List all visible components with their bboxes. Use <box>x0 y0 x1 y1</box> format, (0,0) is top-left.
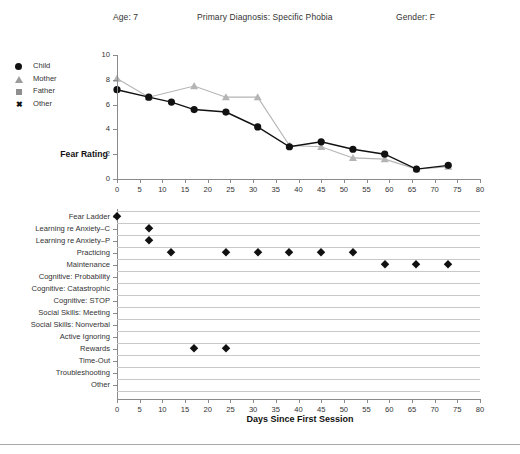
x-tick <box>117 179 118 183</box>
data-point-circle <box>145 94 152 101</box>
footer-divider <box>0 444 520 445</box>
session-marker <box>167 248 175 256</box>
patient-gender: Gender: F <box>396 12 435 22</box>
session-marker <box>444 260 452 268</box>
x-tick <box>253 399 254 403</box>
data-point-circle <box>318 138 325 145</box>
y-tick <box>113 229 117 230</box>
x-tick-label: 60 <box>377 185 401 194</box>
y-tick <box>113 301 117 302</box>
x-tick <box>162 399 163 403</box>
session-marker <box>253 248 261 256</box>
y-tick <box>113 241 117 242</box>
category-label: Time-Out <box>79 356 110 365</box>
y-tick <box>113 129 117 130</box>
data-point-circle <box>286 143 293 150</box>
x-tick <box>344 179 345 183</box>
y-tick <box>113 105 117 106</box>
x-tick <box>140 399 141 403</box>
x-tick-label: 70 <box>423 405 447 414</box>
x-tick-label: 35 <box>264 185 288 194</box>
category-label: Rewards <box>80 344 110 353</box>
x-tick <box>230 399 231 403</box>
x-tick <box>367 399 368 403</box>
category-label: Social Skills: Meeting <box>38 308 110 317</box>
y-tick <box>113 361 117 362</box>
category-row-line <box>117 283 480 284</box>
x-tick-label: 70 <box>423 185 447 194</box>
treatment-components-chart: Fear LadderLearning re Anxiety–CLearning… <box>0 205 520 420</box>
y-tick <box>113 325 117 326</box>
x-tick-label: 15 <box>173 405 197 414</box>
y-tick <box>113 80 117 81</box>
y-tick <box>113 313 117 314</box>
session-marker <box>190 344 198 352</box>
session-marker <box>285 248 293 256</box>
x-tick <box>389 179 390 183</box>
category-label: Cognitive: Catastrophic <box>31 284 110 293</box>
session-marker <box>222 248 230 256</box>
x-tick-label: 80 <box>468 185 492 194</box>
category-row-line <box>117 307 480 308</box>
category-label: Troubleshooting <box>56 368 110 377</box>
x-tick-label: 5 <box>128 405 152 414</box>
x-tick <box>185 399 186 403</box>
x-tick <box>299 179 300 183</box>
y-tick <box>113 265 117 266</box>
x-tick <box>457 179 458 183</box>
category-label: Cognitive: Probability <box>39 272 110 281</box>
series-mother <box>113 75 452 173</box>
category-label: Practicing <box>77 248 110 257</box>
data-point-circle <box>381 151 388 158</box>
x-tick-label: 80 <box>468 405 492 414</box>
x-tick-label: 0 <box>105 405 129 414</box>
y-tick-label: 10 <box>90 50 110 59</box>
session-marker <box>412 260 420 268</box>
x-tick <box>208 179 209 183</box>
x-tick-label: 40 <box>287 405 311 414</box>
category-row-line <box>117 211 480 212</box>
x-tick-label: 10 <box>150 405 174 414</box>
category-label: Learning re Anxiety–P <box>36 236 110 245</box>
x-tick <box>435 179 436 183</box>
category-row-line <box>117 259 480 260</box>
x-tick <box>457 399 458 403</box>
category-row-line <box>117 223 480 224</box>
session-marker <box>349 248 357 256</box>
x-tick <box>230 179 231 183</box>
x-tick-label: 50 <box>332 185 356 194</box>
fear-rating-report: Age: 7 Primary Diagnosis: Specific Phobi… <box>0 0 520 454</box>
category-row-line <box>117 235 480 236</box>
y-tick-label: 0 <box>90 174 110 183</box>
session-marker <box>317 248 325 256</box>
fear-rating-chart: Fear Rating 0246810051015202530354045505… <box>0 46 520 196</box>
category-row-line <box>117 379 480 380</box>
category-row-line <box>117 295 480 296</box>
y-tick-label: 4 <box>90 124 110 133</box>
x-tick-label: 60 <box>377 405 401 414</box>
x-axis-title: Days Since First Session <box>140 414 460 424</box>
x-tick <box>253 179 254 183</box>
category-label: Learning re Anxiety–C <box>35 224 110 233</box>
category-label: Maintenance <box>67 260 110 269</box>
data-point-circle <box>349 146 356 153</box>
x-tick-label: 35 <box>264 405 288 414</box>
session-marker <box>380 260 388 268</box>
y-tick <box>113 55 117 56</box>
x-tick-label: 55 <box>355 185 379 194</box>
session-marker <box>113 212 121 220</box>
x-tick-label: 75 <box>445 185 469 194</box>
x-tick-label: 55 <box>355 405 379 414</box>
x-tick-label: 15 <box>173 185 197 194</box>
x-tick-label: 75 <box>445 405 469 414</box>
category-row-line <box>117 391 480 392</box>
x-tick-label: 0 <box>105 185 129 194</box>
x-tick-label: 50 <box>332 405 356 414</box>
session-marker <box>145 224 153 232</box>
series-child <box>113 86 451 173</box>
category-row-line <box>117 319 480 320</box>
y-tick <box>113 373 117 374</box>
x-tick <box>321 179 322 183</box>
x-tick-label: 25 <box>218 185 242 194</box>
y-tick <box>113 289 117 290</box>
